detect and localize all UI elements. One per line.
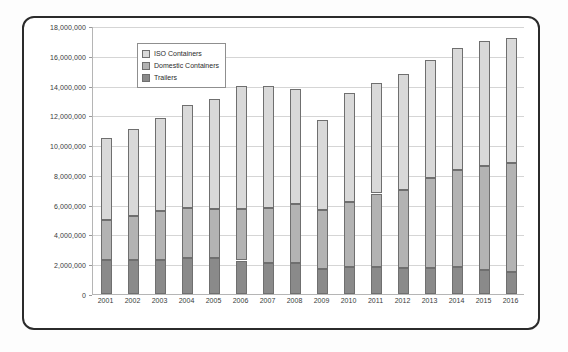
x-tick-label: 2006 xyxy=(233,297,249,304)
bar-segment-domestic-containers[interactable] xyxy=(506,163,517,272)
bar-segment-iso-containers[interactable] xyxy=(128,129,139,215)
bar-segment-domestic-containers[interactable] xyxy=(290,204,301,264)
bar-segment-iso-containers[interactable] xyxy=(182,105,193,208)
bar-segment-iso-containers[interactable] xyxy=(101,138,112,219)
bar-segment-trailers[interactable] xyxy=(506,272,517,294)
x-tick-label: 2014 xyxy=(449,297,465,304)
bar-segment-trailers[interactable] xyxy=(128,260,139,294)
x-tick-label: 2016 xyxy=(503,297,519,304)
bar-segment-iso-containers[interactable] xyxy=(506,38,517,163)
bar-group[interactable] xyxy=(506,26,517,294)
bar-group[interactable] xyxy=(452,26,463,294)
bar-segment-iso-containers[interactable] xyxy=(236,86,247,210)
legend-label: ISO Containers xyxy=(154,50,202,57)
bar-group[interactable] xyxy=(101,26,112,294)
legend-item[interactable]: Trailers xyxy=(142,72,219,83)
bar-segment-trailers[interactable] xyxy=(101,260,112,294)
bar-segment-trailers[interactable] xyxy=(263,263,274,294)
bar-group[interactable] xyxy=(344,26,355,294)
x-axis: 2001200220032004200520062007200820092010… xyxy=(92,297,524,315)
x-tick-label: 2007 xyxy=(260,297,276,304)
x-tick-label: 2008 xyxy=(287,297,303,304)
y-tick-label: 4,000,000 xyxy=(54,232,86,239)
bar-segment-trailers[interactable] xyxy=(371,267,382,294)
bar-segment-domestic-containers[interactable] xyxy=(317,210,328,269)
bar-segment-domestic-containers[interactable] xyxy=(182,208,193,258)
bar-segment-trailers[interactable] xyxy=(479,270,490,294)
x-tick-label: 2010 xyxy=(341,297,357,304)
bar-segment-iso-containers[interactable] xyxy=(371,83,382,194)
x-tick-label: 2011 xyxy=(368,297,383,304)
bar-group[interactable] xyxy=(398,26,409,294)
bar-segment-trailers[interactable] xyxy=(452,267,463,294)
bar-segment-trailers[interactable] xyxy=(236,261,247,295)
y-tick-label: 2,000,000 xyxy=(54,262,86,269)
bar-segment-domestic-containers[interactable] xyxy=(128,216,139,260)
bar-segment-iso-containers[interactable] xyxy=(398,74,409,190)
legend-swatch-icon xyxy=(142,62,150,70)
bar-segment-trailers[interactable] xyxy=(317,269,328,294)
bar-segment-iso-containers[interactable] xyxy=(155,118,166,211)
bar-segment-iso-containers[interactable] xyxy=(263,86,274,208)
y-tick-label: 12,000,000 xyxy=(50,113,86,120)
bar-segment-iso-containers[interactable] xyxy=(479,41,490,166)
bar-segment-iso-containers[interactable] xyxy=(452,48,463,170)
bar-segment-domestic-containers[interactable] xyxy=(263,208,274,263)
bar-group[interactable] xyxy=(479,26,490,294)
y-tick-label: 6,000,000 xyxy=(54,202,86,209)
x-tick-label: 2005 xyxy=(206,297,222,304)
bar-segment-domestic-containers[interactable] xyxy=(344,202,355,268)
legend-label: Trailers xyxy=(154,74,177,81)
legend-item[interactable]: Domestic Containers xyxy=(142,60,219,71)
bar-segment-domestic-containers[interactable] xyxy=(479,166,490,270)
x-tick-label: 2015 xyxy=(476,297,492,304)
y-tick-label: 10,000,000 xyxy=(50,143,86,150)
bar-segment-domestic-containers[interactable] xyxy=(371,194,382,268)
bar-segment-domestic-containers[interactable] xyxy=(101,220,112,260)
bar-segment-trailers[interactable] xyxy=(290,263,301,294)
bar-segment-trailers[interactable] xyxy=(209,258,220,294)
y-tick-label: 16,000,000 xyxy=(50,53,86,60)
bar-segment-domestic-containers[interactable] xyxy=(155,211,166,259)
bar-segment-domestic-containers[interactable] xyxy=(425,178,436,268)
bar-group[interactable] xyxy=(290,26,301,294)
bar-group[interactable] xyxy=(317,26,328,294)
legend-swatch-icon xyxy=(142,74,150,82)
bar-segment-domestic-containers[interactable] xyxy=(236,209,247,260)
bar-segment-trailers[interactable] xyxy=(425,268,436,294)
bar-group[interactable] xyxy=(263,26,274,294)
legend-swatch-icon xyxy=(142,50,150,58)
bar-segment-domestic-containers[interactable] xyxy=(209,209,220,258)
bar-segment-trailers[interactable] xyxy=(398,268,409,294)
y-tick-label: 18,000,000 xyxy=(50,24,86,31)
x-tick-label: 2012 xyxy=(395,297,411,304)
bar-segment-iso-containers[interactable] xyxy=(290,89,301,204)
y-tick-label: 0 xyxy=(82,292,86,299)
bar-segment-iso-containers[interactable] xyxy=(317,120,328,210)
bar-group[interactable] xyxy=(236,26,247,294)
y-axis: 18,000,00016,000,00014,000,00012,000,000… xyxy=(24,18,92,332)
figure-frame: 18,000,00016,000,00014,000,00012,000,000… xyxy=(22,16,540,330)
bar-segment-iso-containers[interactable] xyxy=(425,60,436,178)
y-tick-label: 8,000,000 xyxy=(54,172,86,179)
y-tick-label: 14,000,000 xyxy=(50,83,86,90)
legend-item[interactable]: ISO Containers xyxy=(142,48,219,59)
bar-segment-domestic-containers[interactable] xyxy=(398,190,409,268)
bar-segment-trailers[interactable] xyxy=(182,258,193,294)
legend-label: Domestic Containers xyxy=(154,62,219,69)
bar-group[interactable] xyxy=(371,26,382,294)
x-tick-label: 2002 xyxy=(125,297,141,304)
x-tick-label: 2009 xyxy=(314,297,330,304)
x-tick-label: 2004 xyxy=(179,297,195,304)
bar-segment-trailers[interactable] xyxy=(155,260,166,294)
chart-legend: ISO ContainersDomestic ContainersTrailer… xyxy=(137,43,226,88)
x-tick-label: 2003 xyxy=(152,297,168,304)
x-tick-label: 2001 xyxy=(98,297,114,304)
bar-segment-domestic-containers[interactable] xyxy=(452,170,463,267)
bar-segment-iso-containers[interactable] xyxy=(209,99,220,209)
bar-segment-trailers[interactable] xyxy=(344,267,355,294)
bar-segment-iso-containers[interactable] xyxy=(344,93,355,202)
bar-group[interactable] xyxy=(425,26,436,294)
x-tick-label: 2013 xyxy=(422,297,438,304)
chart-page: 18,000,00016,000,00014,000,00012,000,000… xyxy=(0,0,568,352)
